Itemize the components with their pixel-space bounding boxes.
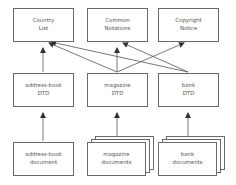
common-notations-box: CommonNotations — [87, 8, 148, 42]
label: magazine — [101, 151, 131, 159]
magazine-dtd-box: magazineDTD — [87, 73, 148, 107]
arrow-magazine-to-copyright — [117, 43, 184, 72]
magazine-documents-box: magazinedocuments — [87, 142, 146, 176]
arrow-magazine-to-country — [49, 43, 117, 72]
label: address-book — [25, 82, 61, 90]
label: bank — [172, 151, 202, 159]
label: List — [33, 25, 54, 33]
label: documents — [101, 159, 131, 167]
label: Common — [105, 17, 131, 25]
label: address-book — [25, 151, 61, 159]
copyright-notice-box: CopyrightNotice — [158, 8, 219, 42]
label: magazine — [104, 82, 130, 90]
address-book-document-box: address-bookdocument — [13, 142, 74, 176]
label: DTD — [25, 90, 61, 98]
label: document — [25, 159, 61, 167]
address-book-dtd-box: address-bookDTD — [13, 73, 74, 107]
label: Country — [33, 17, 54, 25]
label: documents — [172, 159, 202, 167]
label: Notice — [175, 25, 201, 33]
label: Notations — [105, 25, 131, 33]
label: DTD — [182, 90, 195, 98]
label: DTD — [104, 90, 130, 98]
arrow-bank-to-notations — [123, 43, 188, 72]
bank-dtd-box: bankDTD — [158, 73, 219, 107]
label: Copyright — [175, 17, 201, 25]
arrow-bank-to-country — [51, 42, 188, 72]
label: bank — [182, 82, 195, 90]
bank-documents-box: bankdocuments — [158, 142, 217, 176]
country-list-box: CountryList — [13, 8, 74, 42]
